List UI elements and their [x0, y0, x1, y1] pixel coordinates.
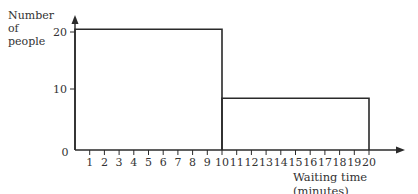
x-tick-label: 11	[230, 156, 244, 169]
x-tick-label: 18	[333, 156, 347, 169]
y-tick-label: 20	[53, 26, 67, 39]
x-tick-label: 15	[289, 156, 303, 169]
histogram-bar-2	[222, 98, 369, 150]
x-tick-label: 7	[174, 156, 181, 169]
axes	[72, 15, 406, 154]
x-tick-label: 4	[130, 156, 137, 169]
x-tick-label: 8	[189, 156, 196, 169]
histogram-bar-1	[75, 29, 222, 150]
x-axis-arrow-icon	[396, 147, 405, 154]
x-tick-label: 17	[318, 156, 332, 169]
x-tick-label: 5	[145, 156, 152, 169]
x-tick-label: 14	[274, 156, 288, 169]
x-tick-label: 19	[347, 156, 361, 169]
x-tick-label: 3	[116, 156, 123, 169]
x-tick-label: 2	[101, 156, 108, 169]
x-tick-label: 9	[204, 156, 211, 169]
x-tick-label: 20	[362, 156, 376, 169]
y-axis-arrow-icon	[72, 15, 79, 24]
x-tick-label: 16	[303, 156, 317, 169]
x-tick-label: 1	[86, 156, 93, 169]
y-tick-label: 10	[53, 83, 67, 96]
x-tick-label: 6	[160, 156, 167, 169]
x-tick-label: 10	[215, 156, 229, 169]
x-tick-label: 12	[244, 156, 258, 169]
histogram-chart: 12345678910111213141516171819200 1020	[0, 0, 418, 194]
y-axis-ticks: 1020	[53, 26, 75, 96]
x-tick-label: 13	[259, 156, 273, 169]
bars	[75, 29, 369, 150]
origin-label: 0	[62, 146, 69, 159]
